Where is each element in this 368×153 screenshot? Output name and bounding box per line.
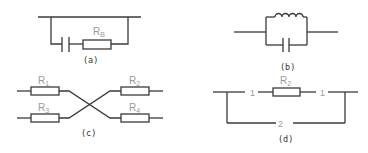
resistor-label-r3: R3 — [38, 102, 49, 114]
resistor-label-r2-d: R2 — [280, 75, 291, 87]
inductor-coil — [275, 14, 303, 18]
panel-b: (b) — [234, 14, 338, 73]
resistor-label-r4: R4 — [129, 102, 140, 114]
resistor-rb — [83, 40, 111, 49]
path-label-1-left: 1 — [250, 88, 255, 98]
caption-b: (b) — [280, 62, 295, 72]
panel-c: R1 R3 R2 R4 (c) — [17, 75, 163, 138]
resistor-r3 — [31, 114, 59, 122]
panel-d: 1 1 2 R2 (d) — [213, 75, 358, 144]
resistor-r4 — [121, 114, 149, 122]
resistor-label-r2: R2 — [129, 75, 140, 87]
resistor-label-rb: RB — [93, 26, 105, 38]
resistor-r2 — [121, 87, 149, 95]
panel-a: RB (a) — [38, 17, 141, 65]
left-drop-wire — [51, 17, 62, 44]
circuit-diagram-figure: RB (a) (b) R1 — [0, 0, 368, 153]
right-drop-wire — [111, 17, 128, 44]
path-label-1-right: 1 — [320, 88, 325, 98]
caption-d: (d) — [278, 134, 293, 144]
caption-a: (a) — [83, 55, 98, 65]
resistor-label-r1: R1 — [38, 75, 49, 87]
resistor-r2 — [273, 88, 300, 96]
resistor-r1 — [31, 87, 59, 95]
cross-wire-2 — [59, 91, 121, 118]
path-label-2: 2 — [278, 119, 283, 129]
caption-c: (c) — [81, 128, 96, 138]
